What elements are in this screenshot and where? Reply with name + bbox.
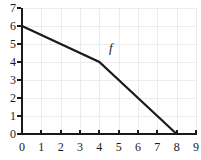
x-axis-tick: [21, 130, 23, 134]
function-polyline: [22, 26, 177, 134]
x-axis-tick: [176, 130, 178, 134]
x-axis-label: 4: [92, 141, 106, 153]
y-axis-tick: [17, 43, 21, 45]
y-axis-label: 0: [4, 128, 16, 140]
y-axis-label: 5: [4, 38, 16, 50]
y-axis-tick: [17, 79, 21, 81]
y-axis-label: 6: [4, 20, 16, 32]
x-axis-tick: [79, 130, 81, 134]
y-axis-label: 1: [4, 110, 16, 122]
x-axis-tick: [98, 130, 100, 134]
y-axis-label: 4: [4, 56, 16, 68]
y-axis-tick: [17, 97, 21, 99]
y-axis-label: 2: [4, 92, 16, 104]
x-axis-label: 8: [170, 141, 184, 153]
function-graph: f 012345670123456789: [0, 0, 201, 160]
x-axis-tick: [118, 130, 120, 134]
y-axis-tick: [17, 61, 21, 63]
x-axis-label: 0: [15, 141, 29, 153]
x-axis-label: 3: [73, 141, 87, 153]
x-axis-label: 1: [34, 141, 48, 153]
y-axis-tick: [17, 7, 21, 9]
x-axis-label: 7: [150, 141, 164, 153]
series-curve-f: [0, 0, 201, 160]
x-axis-tick: [137, 130, 139, 134]
x-axis-label: 6: [131, 141, 145, 153]
x-axis-tick: [60, 130, 62, 134]
x-axis-label: 5: [112, 141, 126, 153]
y-axis-label: 7: [4, 2, 16, 14]
x-axis-label: 9: [189, 141, 201, 153]
x-axis-tick: [40, 130, 42, 134]
x-axis-tick: [195, 130, 197, 134]
y-axis-tick: [17, 25, 21, 27]
y-axis-label: 3: [4, 74, 16, 86]
x-axis-tick: [156, 130, 158, 134]
y-axis-tick: [17, 115, 21, 117]
x-axis-label: 2: [54, 141, 68, 153]
series-label-f: f: [109, 41, 113, 54]
